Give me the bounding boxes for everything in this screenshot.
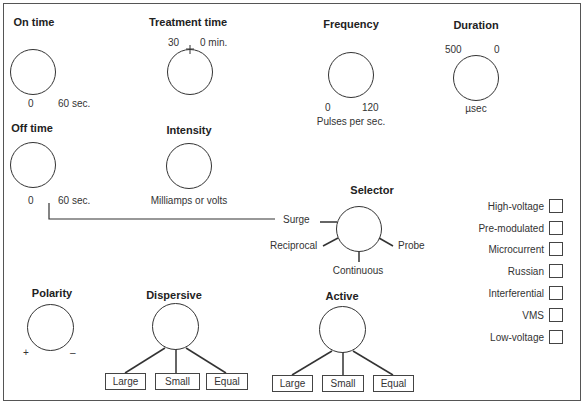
duration-right-label: 0 bbox=[494, 44, 500, 55]
treatment-time-knob[interactable] bbox=[167, 49, 213, 95]
current-type-checkbox[interactable] bbox=[549, 242, 563, 256]
current-type-label: Interferential bbox=[488, 288, 544, 299]
on-time-min-label: 0 bbox=[28, 98, 34, 109]
selector-knob[interactable] bbox=[336, 206, 382, 252]
current-type-label: Microcurrent bbox=[488, 244, 544, 255]
polarity-knob[interactable] bbox=[27, 304, 74, 351]
current-type-checkbox[interactable] bbox=[549, 264, 563, 278]
frequency-min-label: 0 bbox=[325, 102, 331, 113]
dispersive-option-large[interactable]: Large bbox=[105, 373, 146, 390]
on-time-knob[interactable] bbox=[10, 49, 56, 95]
current-type-label: VMS bbox=[522, 310, 544, 321]
polarity-minus-label: – bbox=[70, 347, 76, 358]
dispersive-option-equal[interactable]: Equal bbox=[206, 373, 248, 390]
duration-unit-label: µsec bbox=[465, 103, 486, 114]
off-time-max-label: 60 sec. bbox=[58, 195, 90, 206]
active-option-equal[interactable]: Equal bbox=[373, 375, 414, 392]
current-type-low-voltage[interactable]: Low-voltage bbox=[490, 329, 563, 345]
treatment-time-title: Treatment time bbox=[149, 16, 227, 28]
polarity-title: Polarity bbox=[32, 287, 72, 299]
frequency-max-label: 120 bbox=[362, 102, 379, 113]
frequency-knob[interactable] bbox=[328, 52, 374, 98]
active-option-small[interactable]: Small bbox=[322, 375, 364, 392]
selector-title: Selector bbox=[350, 184, 393, 196]
polarity-plus-label: + bbox=[23, 347, 29, 358]
current-type-vms[interactable]: VMS bbox=[522, 307, 563, 323]
intensity-title: Intensity bbox=[166, 124, 211, 136]
selector-option-probe[interactable]: Probe bbox=[398, 240, 425, 251]
current-type-checkbox[interactable] bbox=[549, 221, 563, 235]
duration-left-label: 500 bbox=[445, 44, 462, 55]
active-title: Active bbox=[325, 290, 358, 302]
intensity-unit-label: Milliamps or volts bbox=[151, 195, 228, 206]
duration-title: Duration bbox=[453, 19, 498, 31]
current-type-label: High-voltage bbox=[488, 201, 544, 212]
current-type-interferential[interactable]: Interferential bbox=[488, 285, 563, 301]
on-time-title: On time bbox=[14, 16, 55, 28]
selector-option-reciprocal[interactable]: Reciprocal bbox=[270, 240, 317, 251]
off-time-knob[interactable] bbox=[10, 142, 56, 188]
current-type-pre-modulated[interactable]: Pre-modulated bbox=[478, 220, 563, 236]
dispersive-knob[interactable] bbox=[152, 303, 199, 350]
off-time-min-label: 0 bbox=[28, 195, 34, 206]
current-type-checkbox[interactable] bbox=[549, 199, 563, 213]
dispersive-option-small[interactable]: Small bbox=[155, 373, 200, 390]
current-type-label: Pre-modulated bbox=[478, 223, 544, 234]
on-time-max-label: 60 sec. bbox=[58, 98, 90, 109]
current-type-checkbox[interactable] bbox=[549, 286, 563, 300]
treatment-time-right-label: 0 min. bbox=[200, 37, 227, 48]
frequency-title: Frequency bbox=[323, 18, 379, 30]
active-knob[interactable] bbox=[319, 306, 366, 353]
dispersive-title: Dispersive bbox=[146, 289, 202, 301]
current-type-high-voltage[interactable]: High-voltage bbox=[488, 198, 563, 214]
frequency-unit-label: Pulses per sec. bbox=[317, 116, 385, 127]
duration-knob[interactable] bbox=[453, 55, 499, 101]
selector-option-continuous[interactable]: Continuous bbox=[333, 265, 384, 276]
current-type-checkbox[interactable] bbox=[549, 308, 563, 322]
current-type-label: Russian bbox=[508, 266, 544, 277]
selector-option-surge[interactable]: Surge bbox=[283, 214, 310, 225]
current-type-russian[interactable]: Russian bbox=[508, 263, 563, 279]
current-type-microcurrent[interactable]: Microcurrent bbox=[488, 241, 563, 257]
current-type-checkbox[interactable] bbox=[549, 330, 563, 344]
active-option-large[interactable]: Large bbox=[272, 375, 313, 392]
off-time-title: Off time bbox=[11, 122, 53, 134]
treatment-time-left-label: 30 bbox=[168, 37, 179, 48]
current-type-label: Low-voltage bbox=[490, 332, 544, 343]
intensity-knob[interactable] bbox=[166, 143, 212, 189]
